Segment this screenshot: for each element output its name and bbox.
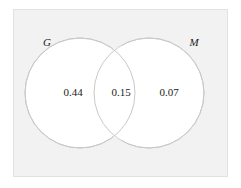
venn-diagram-figure: G M 0.44 0.15 0.07 [0,0,241,188]
right-only-value: 0.07 [159,86,179,98]
set-m-label: M [188,36,199,48]
venn-diagram-canvas: G M 0.44 0.15 0.07 [0,0,241,188]
intersection-value: 0.15 [111,86,131,98]
set-g-label: G [43,36,51,48]
left-only-value: 0.44 [63,86,83,98]
